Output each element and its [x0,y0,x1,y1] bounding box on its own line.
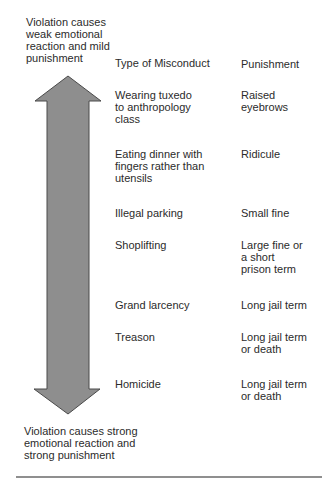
punishment-cell: Ridicule [241,148,321,160]
misconduct-cell: Shoplifting [115,239,225,251]
punishment-cell: Raised eyebrows [241,89,321,113]
bottom-note-strong-reaction: Violation causes strong emotional reacti… [24,425,144,461]
punishment-cell: Long jail term or death [241,331,321,355]
punishment-cell: Long jail term or death [241,378,321,402]
misconduct-cell: Eating dinner with fingers rather than u… [115,148,225,184]
misconduct-cell: Illegal parking [115,207,225,219]
punishment-cell: Small fine [241,207,321,219]
punishment-cell: Long jail term [241,299,321,311]
punishment-cell: Large fine or a short prison term [241,239,321,275]
bottom-divider [16,476,322,478]
misconduct-cell: Treason [115,331,225,343]
misconduct-cell: Wearing tuxedo to anthropology class [115,89,225,125]
misconduct-cell: Homicide [115,378,225,390]
misconduct-cell: Grand larcency [115,299,225,311]
